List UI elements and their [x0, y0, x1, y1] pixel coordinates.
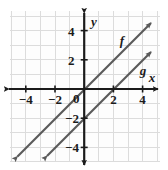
- y-tick-label-neg-4: −4: [65, 140, 79, 155]
- x-axis-label: x: [148, 70, 156, 85]
- function-label-g: g: [139, 63, 147, 78]
- graph-canvas: −4 −2 2 4 4 2 −2 −4 0 y x f g: [0, 0, 168, 170]
- y-tick-label-pos-2: 2: [68, 53, 75, 68]
- y-tick-label-pos-4: 4: [68, 24, 75, 39]
- coordinate-plane-figure: −4 −2 2 4 4 2 −2 −4 0 y x f g: [0, 0, 168, 170]
- x-tick-label-neg-2: −2: [48, 92, 62, 107]
- x-tick-label-pos-4: 4: [139, 92, 146, 107]
- y-axis-label: y: [89, 14, 97, 29]
- origin-label: 0: [73, 91, 80, 106]
- x-tick-label-pos-2: 2: [110, 92, 117, 107]
- x-tick-label-neg-4: −4: [19, 92, 33, 107]
- y-tick-label-neg-2: −2: [65, 111, 79, 126]
